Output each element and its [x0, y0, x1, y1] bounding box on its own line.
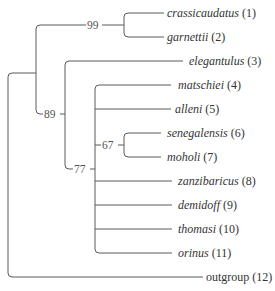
taxon-label-outgroup: outgroup (12) — [206, 270, 272, 284]
taxon-label: orinus (11) — [178, 246, 231, 260]
taxon-label: demidoff (9) — [178, 198, 237, 212]
taxon-label: moholi (7) — [167, 150, 217, 164]
taxon-label: garnettii (2) — [167, 30, 225, 44]
taxon-label: zanzibaricus (8) — [177, 174, 256, 188]
taxon-label: senegalensis (6) — [167, 126, 245, 140]
taxon-label: crassicaudatus (1) — [167, 6, 256, 20]
taxon-label: alleni (5) — [175, 102, 219, 116]
taxon-label: elegantulus (3) — [189, 54, 261, 68]
branch-node-89 — [36, 25, 124, 114]
support-value-89: 89 — [44, 108, 56, 120]
taxon-label: thomasi (10) — [178, 222, 239, 236]
phylogenetic-tree: 99 89 77 67 crassicaudatus (1) garnettii… — [0, 0, 275, 291]
support-value-77: 77 — [74, 163, 86, 175]
branch-clade-77 — [95, 85, 172, 253]
taxon-label: matschiei (4) — [178, 78, 241, 92]
support-value-67: 67 — [102, 139, 114, 151]
root-branch — [8, 73, 203, 277]
support-value-99: 99 — [87, 19, 99, 31]
branch-clade-99 — [124, 13, 164, 37]
branch-clade-67 — [124, 133, 161, 157]
